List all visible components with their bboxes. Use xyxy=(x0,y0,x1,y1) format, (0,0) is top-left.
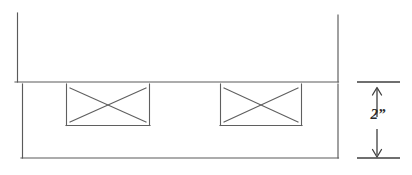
drawing-svg xyxy=(0,0,412,175)
lower-band-panel xyxy=(21,84,339,158)
technical-drawing-canvas: 2” xyxy=(0,0,412,175)
upper-wall-panel xyxy=(15,13,339,82)
dimension-label-2in: 2” xyxy=(358,105,398,123)
opening-right xyxy=(220,84,302,126)
opening-left xyxy=(66,84,150,126)
